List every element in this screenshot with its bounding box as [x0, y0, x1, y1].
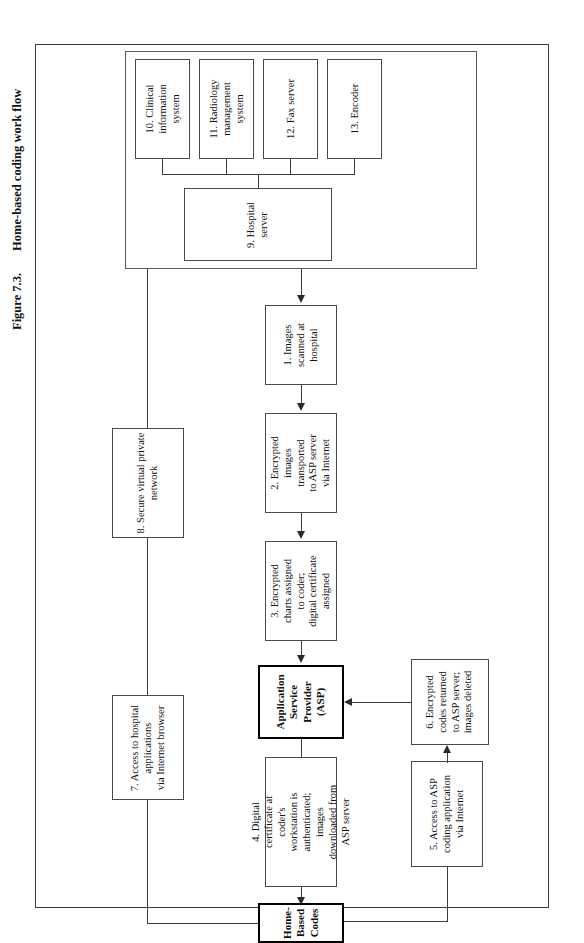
node-13-label: 13. Encoder	[348, 84, 361, 135]
node-13-encoder[interactable]: 13. Encoder	[327, 59, 382, 159]
node-12-fax-server[interactable]: 12. Fax server	[263, 59, 318, 159]
figure-caption: Figure 7.3.Home-based coding work flow	[0, 0, 34, 330]
connector-13-stub	[354, 159, 355, 174]
node-11-label: 11. Radiology management system	[207, 79, 245, 138]
arrowhead-server-to-1	[297, 295, 305, 303]
node-8-label: 8. Secure virtual private network	[135, 433, 161, 534]
node-3-label: 3. Encrypted charts assigned to coder; d…	[269, 555, 333, 626]
node-home-based-codes-label: Home- Based Codes	[281, 907, 321, 939]
node-9-hospital-server[interactable]: 9. Hospital server	[184, 188, 332, 261]
arrowhead-2-to-3	[297, 531, 305, 539]
connector-hbc-to-5-h	[343, 921, 447, 922]
connector-asp-to-4	[301, 739, 302, 757]
connector-10-stub	[162, 159, 163, 174]
figure-number: Figure 7.3.	[10, 273, 24, 330]
node-3-encrypted-charts-assigned[interactable]: 3. Encrypted charts assigned to coder; d…	[265, 541, 337, 641]
node-7-access-hospital-applications[interactable]: 7. Access to hospital applications via I…	[112, 695, 184, 800]
figure-title: Home-based coding work flow	[10, 89, 24, 251]
node-2-encrypted-images-transported[interactable]: 2. Encrypted images transported to ASP s…	[265, 413, 337, 513]
connector-hbc-to-5-v	[447, 867, 448, 922]
connector-8-to-7	[147, 538, 148, 695]
connector-12-stub	[290, 159, 291, 174]
arrowhead-1-to-2	[297, 403, 305, 411]
diagram-frame: 10. Clinical information system 11. Radi…	[35, 44, 549, 908]
arrowhead-5-to-6	[443, 745, 451, 753]
connector-11-stub	[226, 159, 227, 174]
node-1-label: 1. Images scanned at hospital	[282, 323, 320, 367]
arrowhead-3-to-asp	[297, 655, 305, 663]
connector-7-to-hbc-v	[147, 800, 148, 923]
node-1-images-scanned[interactable]: 1. Images scanned at hospital	[265, 305, 337, 385]
node-home-based-codes[interactable]: Home- Based Codes	[258, 903, 344, 943]
node-10-label: 10. Clinical information system	[143, 84, 181, 134]
node-8-secure-virtual-private-network[interactable]: 8. Secure virtual private network	[112, 428, 184, 538]
connector-6-to-asp	[352, 702, 411, 703]
node-6-label: 6. Encrypted codes returned to ASP serve…	[424, 671, 475, 734]
node-5-label: 5. Access to ASP coding application via …	[428, 775, 466, 853]
connector-7-to-hbc-h	[147, 923, 259, 924]
node-asp-label: Application Service Provider (ASP)	[274, 674, 328, 729]
node-asp-application-service-provider[interactable]: Application Service Provider (ASP)	[258, 665, 344, 739]
connector-hospital-to-8	[147, 269, 148, 428]
node-12-label: 12. Fax server	[284, 79, 297, 139]
node-4-label: 4. Digital certificate at coder's workst…	[250, 785, 352, 859]
connector-bus-to-server	[258, 174, 259, 188]
node-11-radiology-management-system[interactable]: 11. Radiology management system	[199, 59, 254, 159]
arrowhead-6-to-asp	[344, 698, 352, 706]
node-9-label: 9. Hospital server	[245, 201, 271, 247]
node-2-label: 2. Encrypted images transported to ASP s…	[269, 434, 333, 491]
node-7-label: 7. Access to hospital applications via I…	[129, 704, 167, 790]
node-5-access-asp-coding-application[interactable]: 5. Access to ASP coding application via …	[411, 761, 483, 867]
node-10-clinical-information-system[interactable]: 10. Clinical information system	[135, 59, 190, 159]
node-4-digital-certificate-workstation[interactable]: 4. Digital certificate at coder's workst…	[265, 757, 337, 887]
node-6-encrypted-codes-returned[interactable]: 6. Encrypted codes returned to ASP serve…	[411, 659, 489, 745]
